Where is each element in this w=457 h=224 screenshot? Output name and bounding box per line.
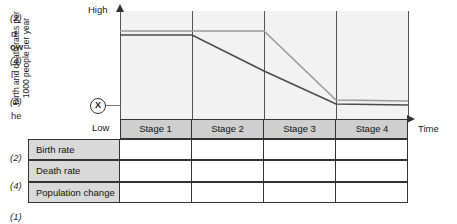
table-cell-birth-stage2[interactable]: [192, 140, 264, 159]
answer-table: Birth rate Death rate Population change: [28, 139, 408, 203]
mark-allocation: (1): [10, 211, 22, 222]
stage-label-1: Stage 1: [120, 119, 192, 139]
mark-allocation: (2): [10, 152, 22, 163]
table-cell-popchange-stage2[interactable]: [192, 183, 264, 202]
worksheet-figure: (2) rt ow (4) l (2) he (2) (4) (1) High …: [0, 0, 457, 224]
table-row: Birth rate: [28, 139, 408, 160]
stage-label-3: Stage 3: [264, 119, 336, 139]
table-cell-popchange-stage4[interactable]: [336, 183, 408, 202]
table-cell-death-stage1[interactable]: [120, 161, 192, 180]
mark-allocation: (4): [10, 180, 22, 191]
row-label-death-rate: Death rate: [28, 161, 120, 180]
table-row: Death rate: [28, 160, 408, 181]
stage-label-2: Stage 2: [192, 119, 264, 139]
table-cell-death-stage3[interactable]: [264, 161, 336, 180]
table-cell-popchange-stage1[interactable]: [120, 183, 192, 202]
table-cell-popchange-stage3[interactable]: [264, 183, 336, 202]
table-cell-death-stage4[interactable]: [336, 161, 408, 180]
row-label-population-change: Population change: [28, 183, 120, 202]
table-cell-birth-stage1[interactable]: [120, 140, 192, 159]
demographic-transition-chart: High Low Time Birth and death rates per …: [0, 0, 457, 145]
row-label-birth-rate: Birth rate: [28, 140, 120, 159]
birth-rate-line: [120, 31, 408, 101]
death-rate-line: [120, 35, 408, 105]
stage-label-4: Stage 4: [336, 119, 408, 139]
table-row: Population change: [28, 182, 408, 203]
table-cell-birth-stage4[interactable]: [336, 140, 408, 159]
table-cell-birth-stage3[interactable]: [264, 140, 336, 159]
table-cell-death-stage2[interactable]: [192, 161, 264, 180]
